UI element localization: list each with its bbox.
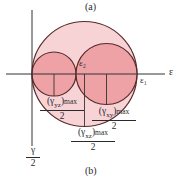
epsilon-2-label: ε₂ — [79, 59, 86, 68]
radius-label-xz: (γxz)max 2 — [71, 128, 115, 152]
gamma-half-label: γ 2 — [26, 146, 40, 168]
epsilon-axis-label: ε — [169, 67, 173, 77]
radius-label-yz: (γyz)max 2 — [40, 97, 84, 121]
caption-a: (a) — [85, 2, 96, 12]
epsilon-1-label: ε₁ — [140, 76, 147, 85]
caption-b: (b) — [85, 166, 97, 176]
